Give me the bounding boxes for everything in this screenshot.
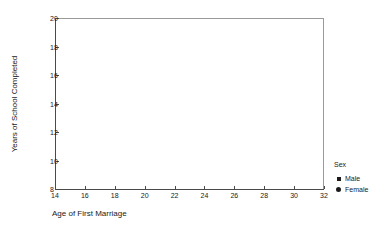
legend-item-label: Female	[345, 185, 368, 195]
x-tick-label: 30	[290, 191, 298, 200]
x-tick	[175, 186, 176, 189]
circle-marker-icon	[334, 187, 343, 192]
x-tick-label: 32	[320, 191, 328, 200]
y-tick-label: 18	[50, 42, 58, 51]
y-tick-label: 20	[50, 14, 58, 23]
x-tick-label: 20	[141, 191, 149, 200]
x-tick-label: 16	[81, 191, 89, 200]
x-tick	[294, 186, 295, 189]
x-tick	[115, 186, 116, 189]
y-tick-label: 10	[50, 156, 58, 165]
x-tick	[234, 186, 235, 189]
y-tick-label: 12	[50, 128, 58, 137]
x-tick-label: 24	[201, 191, 209, 200]
x-tick	[85, 186, 86, 189]
x-tick	[324, 186, 325, 189]
x-tick-label: 18	[111, 191, 119, 200]
y-tick	[56, 189, 59, 190]
x-tick	[204, 186, 205, 189]
square-marker-icon	[334, 177, 343, 181]
x-tick	[145, 186, 146, 189]
x-tick	[264, 186, 265, 189]
legend-item-label: Male	[345, 174, 360, 184]
x-tick-label: 26	[230, 191, 238, 200]
legend: Sex Male Female	[334, 160, 390, 195]
x-tick-label: 28	[260, 191, 268, 200]
y-tick-label: 14	[50, 99, 58, 108]
plot-area	[55, 18, 324, 190]
x-tick-label: 22	[171, 191, 179, 200]
legend-item-male[interactable]: Male	[334, 173, 390, 184]
y-tick-label: 8	[50, 185, 54, 194]
y-tick-label: 16	[50, 71, 58, 80]
legend-title: Sex	[334, 160, 390, 170]
y-axis-title: Years of School Completed	[10, 56, 19, 153]
x-axis-title: Age of First Marriage	[52, 209, 127, 218]
legend-item-female[interactable]: Female	[334, 184, 390, 195]
scatter-plot-figure: 14161820222426283032 8101214161820 Age o…	[0, 0, 391, 240]
x-axis-line	[55, 189, 324, 190]
